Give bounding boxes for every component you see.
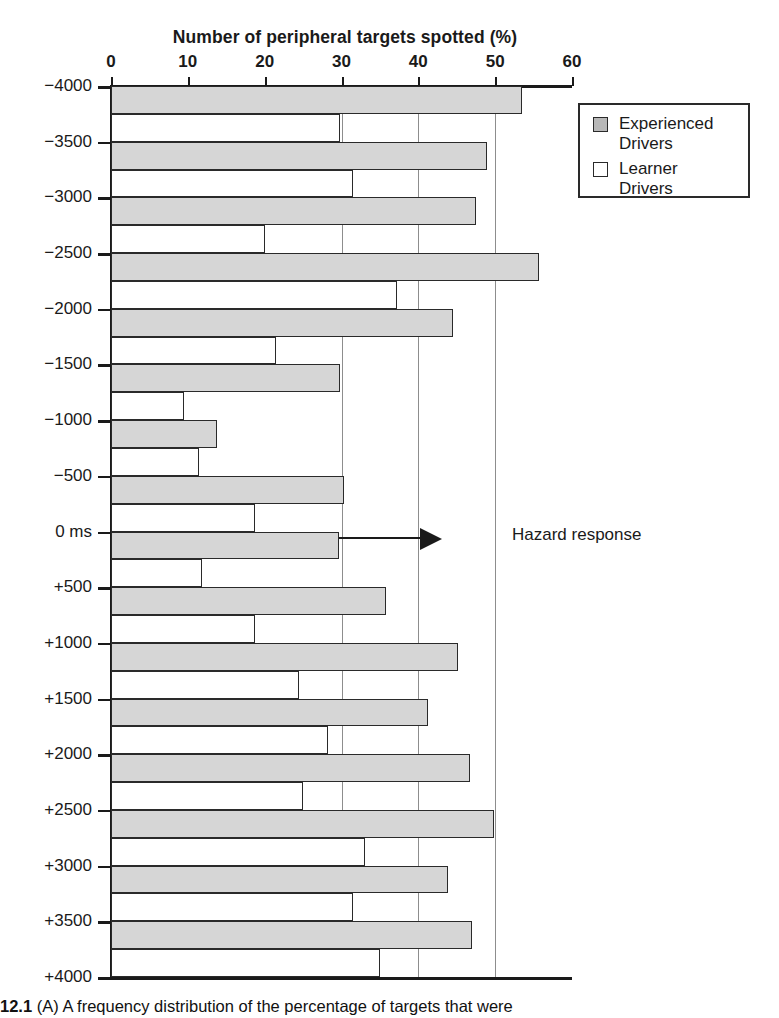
legend-item-learner: LearnerDrivers [593,159,748,199]
figure-caption: 12.1 (A) A frequency distribution of the… [0,996,779,1017]
y-tick [98,364,111,367]
bar-learner [111,615,255,643]
y-tick [98,810,111,813]
bar-learner [111,225,265,253]
bar-experienced [111,142,487,170]
y-tick [98,197,111,200]
bar-learner [111,671,299,699]
legend-item-learner-label: LearnerDrivers [619,159,678,199]
figure-number: 12.1 [0,997,32,1015]
y-tick-label: −3500 [0,132,92,152]
legend-item-experienced: ExperiencedDrivers [593,114,748,154]
x-tick [265,77,267,86]
bar-experienced [111,197,476,225]
x-tick [342,77,344,86]
bar-experienced [111,86,522,114]
bar-learner [111,114,340,142]
x-tick-label: 30 [332,52,351,72]
y-tick [98,587,111,590]
x-tick-label: 60 [563,52,582,72]
y-tick-label: +3500 [0,911,92,931]
plot-area: 0102030405060 −4000−3500−3000−2500−2000−… [111,86,572,979]
x-tick-label: 10 [178,52,197,72]
figure-caption-text: (A) A frequency distribution of the perc… [37,997,513,1015]
bar-experienced [111,866,448,894]
y-tick [98,309,111,312]
y-tick [98,253,111,256]
y-tick [98,142,111,145]
bar-experienced [111,253,539,281]
y-tick [98,866,111,869]
x-tick-label: 20 [255,52,274,72]
y-tick [98,699,111,702]
x-tick [572,77,574,86]
bar-learner [111,559,202,587]
x-tick [418,77,420,86]
hazard-response-label: Hazard response [512,525,641,545]
bar-experienced [111,309,453,337]
y-tick-label: −4000 [0,76,92,96]
y-tick-label: +3000 [0,856,92,876]
y-tick-label: −2000 [0,299,92,319]
y-tick [98,420,111,423]
y-tick-label: +1000 [0,633,92,653]
y-tick-label: −3000 [0,187,92,207]
y-tick-label: −2500 [0,243,92,263]
bar-experienced [111,754,470,782]
y-tick-label: +2500 [0,800,92,820]
bar-experienced [111,921,472,949]
bar-experienced [111,699,428,727]
bar-experienced [111,476,344,504]
x-tick-label: 50 [486,52,505,72]
y-tick-label: +4000 [0,967,92,987]
bar-learner [111,782,303,810]
x-tick-label: 0 [106,52,115,72]
hazard-response-arrow-head-icon [420,528,442,550]
legend-item-experienced-label: ExperiencedDrivers [619,114,714,154]
bar-experienced [111,420,217,448]
figure-panel: Number of peripheral targets spotted (%)… [0,0,779,1018]
bar-learner [111,170,353,198]
y-tick-label: −1500 [0,354,92,374]
x-tick-label: 40 [409,52,428,72]
y-tick-label: +500 [0,577,92,597]
y-tick [98,754,111,757]
bar-experienced [111,532,339,560]
y-tick-label: 0 ms [0,522,92,542]
bar-experienced [111,364,340,392]
bar-learner [111,392,184,420]
y-tick [98,921,111,924]
gray-swatch-icon [593,117,608,132]
y-tick [98,86,111,89]
y-tick-label: +1500 [0,689,92,709]
y-tick [98,977,111,980]
bar-learner [111,337,276,365]
x-tick [111,77,113,86]
y-tick [98,532,111,535]
bar-learner [111,726,328,754]
bar-learner [111,281,397,309]
y-tick-label: +2000 [0,744,92,764]
bar-learner [111,893,353,921]
gridline [495,86,496,977]
bar-learner [111,504,255,532]
x-axis-bottom-line [110,977,572,980]
bar-experienced [111,643,458,671]
y-tick [98,643,111,646]
white-swatch-icon [593,162,608,177]
x-tick [188,77,190,86]
y-tick-label: −1000 [0,410,92,430]
chart-title: Number of peripheral targets spotted (%) [130,27,560,48]
y-tick [98,476,111,479]
bar-learner [111,949,380,977]
x-tick [495,77,497,86]
bar-learner [111,838,365,866]
bar-learner [111,448,199,476]
bar-experienced [111,810,494,838]
y-tick-label: −500 [0,466,92,486]
bar-experienced [111,587,386,615]
legend-box: ExperiencedDrivers LearnerDrivers [578,103,750,198]
